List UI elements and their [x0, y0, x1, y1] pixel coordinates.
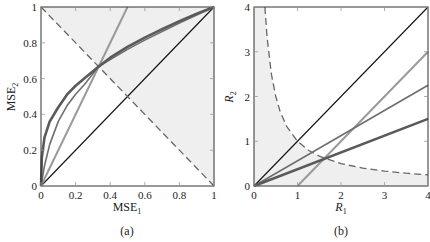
panel-label-b: (b): [334, 224, 348, 238]
plot-area-b: 0123401234: [245, 1, 430, 201]
figure: 00.20.40.60.8100.20.40.60.81 MSE1 MSE2 (…: [0, 0, 430, 242]
y-tick-label-a: 0.4: [23, 108, 37, 120]
y-tick-label-b: 2: [245, 91, 251, 103]
x-tick-label-b: 1: [295, 189, 301, 201]
y-axis-label-b: R2: [222, 91, 238, 103]
y-axis-label-a: MSE2: [4, 83, 20, 112]
y-tick-label-b: 4: [245, 1, 251, 13]
panel-label-a: (a): [120, 224, 133, 238]
x-tick-label-a: 1: [211, 189, 217, 201]
y-tick-label-b: 1: [245, 135, 251, 147]
series-diagonal-b: [254, 7, 428, 186]
panel-a: 00.20.40.60.8100.20.40.60.81 MSE1 MSE2 (…: [4, 1, 217, 238]
y-tick-label-a: 0.6: [23, 73, 37, 85]
y-tick-label-b: 0: [245, 180, 251, 192]
y-tick-label-a: 1: [32, 1, 38, 13]
x-tick-label-a: 0.2: [69, 189, 83, 201]
x-tick-label-a: 0.6: [138, 189, 152, 201]
x-tick-label-b: 4: [425, 189, 430, 201]
panel-b: 0123401234 R1 R2 (b): [222, 1, 430, 238]
x-tick-label-a: 0.8: [173, 189, 187, 201]
series-line-light-b: [298, 52, 429, 186]
y-tick-label-a: 0: [32, 180, 38, 192]
x-tick-label-a: 0: [38, 189, 44, 201]
x-axis-label-b: R1: [334, 200, 346, 216]
y-tick-label-b: 3: [245, 46, 251, 58]
x-axis-label-a: MSE1: [113, 200, 142, 216]
x-tick-label-b: 0: [251, 189, 257, 201]
y-tick-label-a: 0.8: [23, 37, 37, 49]
plot-area-a: 00.20.40.60.8100.20.40.60.81: [23, 1, 217, 201]
y-tick-label-a: 0.2: [23, 144, 37, 156]
x-tick-label-b: 3: [382, 189, 388, 201]
